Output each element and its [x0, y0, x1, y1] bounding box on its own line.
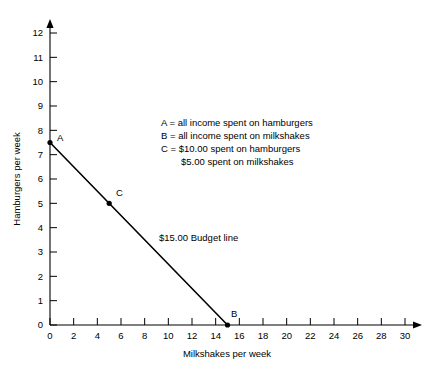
x-tick-label: 24 [329, 330, 340, 341]
y-axis-ticks [50, 33, 57, 325]
x-tick-label: 0 [47, 330, 52, 341]
data-point-c-label: C [116, 187, 123, 198]
x-tick-label: 22 [305, 330, 316, 341]
y-tick-label: 5 [38, 198, 43, 209]
x-tick-label: 4 [95, 330, 100, 341]
x-tick-label: 16 [234, 330, 245, 341]
x-tick-label: 2 [71, 330, 76, 341]
y-tick-label: 2 [38, 271, 43, 282]
x-tick-label: 20 [281, 330, 292, 341]
y-tick-label: 1 [38, 295, 43, 306]
x-tick-label: 8 [142, 330, 147, 341]
y-tick-label: 3 [38, 246, 43, 257]
x-tick-label: 30 [400, 330, 411, 341]
budget-line-label: $15.00 Budget line [159, 232, 238, 243]
data-point-b [225, 322, 230, 327]
legend-line-c-cont: $5.00 spent on milkshakes [181, 156, 294, 167]
x-axis-title: Milkshakes per week [183, 348, 271, 359]
chart-page: 0 1 2 3 4 5 6 7 8 9 10 11 12 [0, 0, 434, 368]
data-point-a-label: A [57, 132, 64, 143]
y-tick-label: 7 [38, 149, 43, 160]
x-tick-label: 14 [210, 330, 221, 341]
y-tick-label: 0 [38, 319, 43, 330]
legend-line-c: C = $10.00 spent on hamburgers [161, 143, 300, 154]
y-tick-label: 11 [33, 52, 43, 63]
legend-line-b: B = all income spent on milkshakes [161, 130, 310, 141]
x-axis-arrow-icon [413, 321, 422, 328]
legend-block: A = all income spent on hamburgers B = a… [161, 117, 313, 167]
x-tick-label: 18 [258, 330, 269, 341]
y-axis-title: Hamburgers per week [11, 132, 22, 226]
x-tick-label: 28 [376, 330, 387, 341]
legend-line-a: A = all income spent on hamburgers [161, 117, 313, 128]
y-tick-label: 12 [32, 27, 43, 38]
y-tick-label: 8 [38, 125, 43, 136]
data-point-a [47, 140, 52, 145]
y-tick-label: 10 [32, 76, 43, 87]
y-tick-label: 6 [38, 173, 43, 184]
data-point-c [107, 201, 112, 206]
budget-line-chart: 0 1 2 3 4 5 6 7 8 9 10 11 12 [0, 0, 434, 368]
y-axis-arrow-icon [46, 19, 53, 28]
x-tick-label: 10 [163, 330, 174, 341]
y-tick-label: 9 [38, 100, 43, 111]
x-tick-label: 6 [118, 330, 123, 341]
x-tick-label: 12 [187, 330, 198, 341]
x-axis-tick-labels: 0 2 4 6 8 10 12 14 16 18 20 22 24 26 28 … [47, 330, 410, 341]
axes-group [46, 19, 422, 329]
x-tick-label: 26 [352, 330, 363, 341]
y-tick-label: 4 [38, 222, 43, 233]
y-axis-tick-labels: 0 1 2 3 4 5 6 7 8 9 10 11 12 [32, 27, 43, 330]
data-point-b-label: B [231, 308, 237, 319]
